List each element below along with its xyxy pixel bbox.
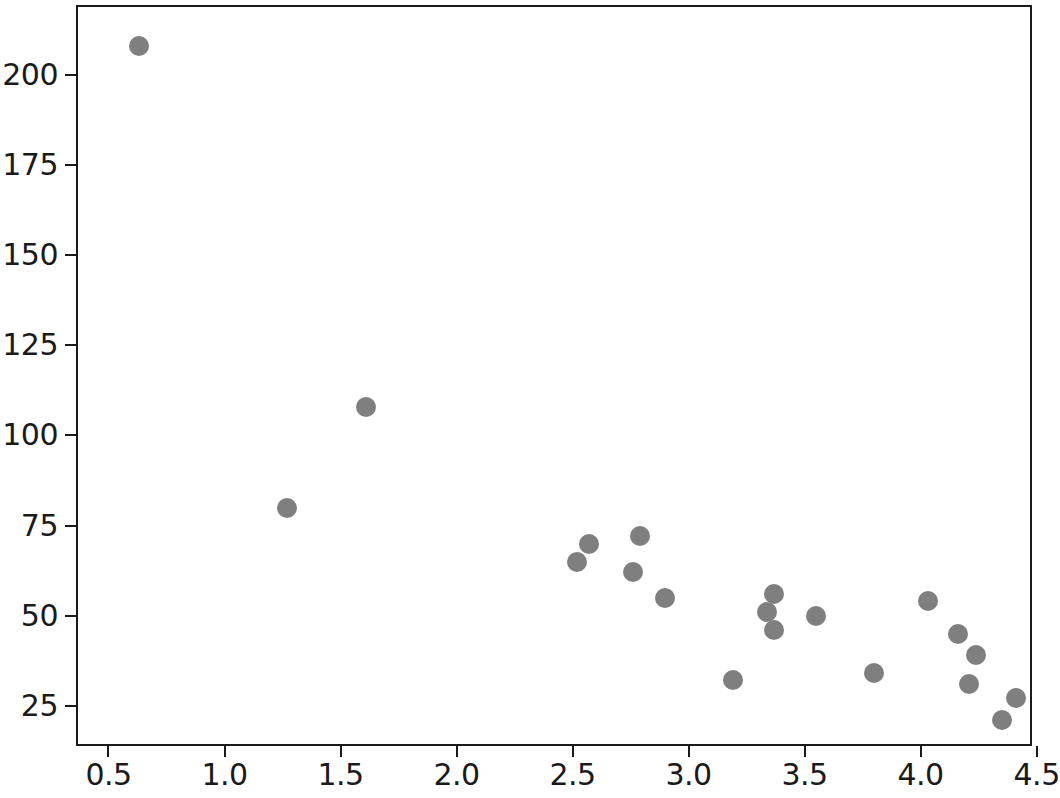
plot-area [76,5,1032,746]
y-axis-tick-label: 75 [0,511,58,541]
x-axis-tick-label: 4.5 [1014,760,1060,790]
y-axis-tick [65,344,76,346]
x-axis-tick-label: 2.5 [549,760,595,790]
x-axis-tick-label: 3.5 [781,760,827,790]
y-axis-tick [65,434,76,436]
y-axis-tick [65,254,76,256]
y-axis-tick [65,74,76,76]
y-axis-tick-label: 50 [0,601,58,631]
x-axis-tick-label: 1.0 [201,760,247,790]
x-axis-tick-label: 2.0 [433,760,479,790]
y-axis-tick-label: 150 [0,240,58,270]
x-axis-tick [920,746,922,757]
x-axis-tick [456,746,458,757]
x-axis-tick [1036,746,1038,757]
x-axis-tick-label: 1.5 [317,760,363,790]
y-axis-tick [65,525,76,527]
x-axis-tick [688,746,690,757]
y-axis-tick [65,615,76,617]
x-axis-tick [107,746,109,757]
x-axis-tick-label: 3.0 [665,760,711,790]
x-axis-tick [572,746,574,757]
y-axis-tick-label: 100 [0,420,58,450]
x-axis-tick [340,746,342,757]
x-axis-tick [224,746,226,757]
y-axis-tick-label: 175 [0,150,58,180]
x-axis-tick-label: 4.0 [898,760,944,790]
y-axis-tick-label: 125 [0,330,58,360]
x-axis-tick-label: 0.5 [85,760,131,790]
y-axis-tick [65,705,76,707]
x-axis-tick [804,746,806,757]
y-axis-tick [65,164,76,166]
y-axis-tick-label: 25 [0,691,58,721]
y-axis-tick-label: 200 [0,60,58,90]
